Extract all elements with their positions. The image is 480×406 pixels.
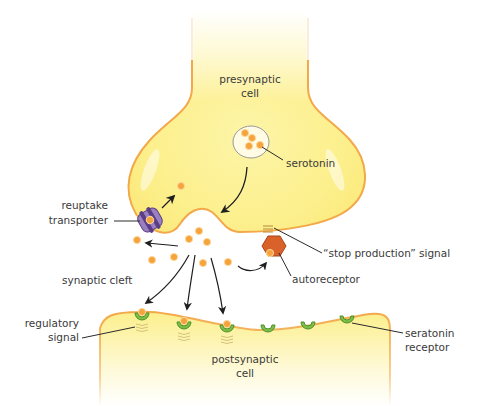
autoreceptor-leader-line [279, 253, 291, 276]
serotonin-molecule [177, 182, 184, 189]
reuptake-label-2: transporter [49, 214, 109, 226]
synaptic-cleft-label: synaptic cleft [62, 274, 132, 286]
presynaptic-cell [128, 10, 365, 233]
receptor-label-1: seratonin [405, 327, 454, 339]
reuptake-label-1: reuptake [61, 199, 108, 211]
autoreceptor-label: autoreceptor [292, 273, 361, 285]
regulatory-label-1: regulatory [25, 317, 79, 329]
serotonin-label: serotonin [286, 157, 335, 169]
synapse-diagram: presynaptic cell serotonin reuptake tran… [0, 0, 480, 406]
postsynaptic-label-2: cell [236, 367, 254, 379]
binding-arrow-3 [211, 258, 223, 313]
presynaptic-label-2: cell [241, 87, 259, 99]
binding-arrow-2 [187, 255, 195, 309]
postsynaptic-label-1: postsynaptic [212, 353, 279, 365]
vesicle [233, 126, 269, 158]
cleft-serotonin [133, 227, 231, 266]
diffusion-arrow-left [146, 243, 178, 246]
presynaptic-label-1: presynaptic [219, 73, 281, 85]
autoreceptor-arrow [238, 263, 266, 271]
receptor-label-2: receptor [405, 341, 450, 353]
diagram-canvas: presynaptic cell serotonin reuptake tran… [0, 0, 480, 406]
stop-signal-label: “stop production” signal [323, 247, 450, 259]
regulatory-label-2: signal [48, 331, 79, 343]
